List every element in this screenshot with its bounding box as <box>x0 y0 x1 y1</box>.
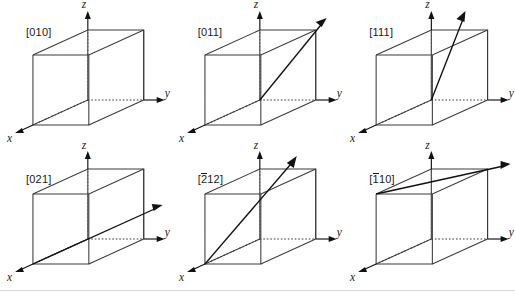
z-axis-arrowhead <box>85 151 91 159</box>
unit-cell-1bar10-drawing: z y x <box>343 147 515 282</box>
cube-front-face <box>33 55 89 125</box>
x-axis-arrowhead <box>187 267 196 272</box>
z-axis-label: z <box>81 0 87 10</box>
y-axis-arrowhead <box>328 97 336 103</box>
cube-front-face <box>205 55 261 125</box>
footer-separator-rule <box>0 290 515 291</box>
unit-cell-010-drawing: z y x <box>0 0 172 147</box>
cube-bottom-right-edge <box>433 100 488 125</box>
cube-front-face <box>376 55 432 125</box>
unit-cell-011-drawing: z y x <box>172 0 344 147</box>
cube-left-face <box>33 30 88 125</box>
unit-cell-111: [111] z y x <box>343 0 515 147</box>
z-axis-label: z <box>81 139 87 151</box>
y-axis-label: y <box>335 87 342 100</box>
cube-left-face <box>205 30 260 125</box>
direction-vector-111-arrowhead <box>457 11 466 22</box>
y-axis-label: y <box>508 226 515 239</box>
unit-cell-2bar12-drawing: z y x <box>172 147 344 282</box>
direction-vector-021 <box>33 208 157 264</box>
unit-cell-grid: [010] z y <box>0 0 515 299</box>
cube-front-face <box>376 194 432 264</box>
z-axis-arrowhead <box>429 11 435 19</box>
x-axis-arrowhead <box>358 128 367 133</box>
direction-vector-011-arrowhead <box>315 18 326 27</box>
x-axis-label: x <box>178 132 184 144</box>
x-axis-arrowhead <box>15 128 24 133</box>
y-axis-label: y <box>164 226 171 239</box>
z-axis-label: z <box>425 0 431 10</box>
x-axis-label: x <box>349 271 356 283</box>
unit-cell-011: [011] z y x <box>172 0 344 147</box>
z-axis-label: z <box>253 0 259 10</box>
cube-left-face <box>205 169 260 264</box>
x-axis-arrowhead <box>187 128 196 133</box>
cube-bottom-right-edge <box>89 239 144 264</box>
y-axis-arrowhead <box>157 97 165 103</box>
x-axis-label: x <box>349 132 356 144</box>
cube-front-face <box>33 194 89 264</box>
z-axis-arrowhead <box>256 151 262 159</box>
unit-cell-021-drawing: z y x <box>0 147 172 282</box>
x-axis-label: x <box>6 271 12 283</box>
y-axis-label: y <box>164 87 171 100</box>
z-axis-arrowhead <box>256 11 262 19</box>
z-axis-label: z <box>253 139 259 151</box>
x-axis-arrowhead <box>358 267 367 272</box>
x-axis-label: x <box>6 132 12 144</box>
cube-bottom-right-edge <box>433 239 488 264</box>
y-axis-label: y <box>508 87 515 100</box>
z-axis-label: z <box>425 139 431 151</box>
y-axis-arrowhead <box>157 236 165 242</box>
y-axis-arrowhead <box>501 97 509 103</box>
unit-cell-111-drawing: z y x <box>343 0 515 147</box>
direction-vector-1bar10 <box>376 166 503 194</box>
unit-cell-1bar10: [110] z y x <box>343 147 515 282</box>
cube-left-face <box>376 30 431 125</box>
cube-bottom-right-edge <box>260 100 315 125</box>
cube-left-face <box>33 169 88 264</box>
unit-cell-021: [021] z y x <box>0 147 172 282</box>
unit-cell-2bar12: [212] z y x <box>172 147 344 282</box>
direction-vector-2bar12 <box>205 163 292 264</box>
direction-vector-1bar10-arrowhead <box>501 161 511 169</box>
cube-bottom-right-edge <box>89 100 144 125</box>
cube-bottom-right-edge <box>260 239 315 264</box>
y-axis-label: y <box>335 226 342 239</box>
z-axis-arrowhead <box>429 151 435 159</box>
direction-vector-011 <box>259 24 321 100</box>
x-axis-arrowhead <box>15 267 24 272</box>
unit-cell-010: [010] z y <box>0 0 172 147</box>
y-axis-arrowhead <box>328 236 336 242</box>
z-axis-arrowhead <box>85 11 91 19</box>
crystal-directions-figure: [010] z y <box>0 0 515 299</box>
x-axis-label: x <box>178 271 184 283</box>
y-axis-arrowhead <box>501 236 509 242</box>
